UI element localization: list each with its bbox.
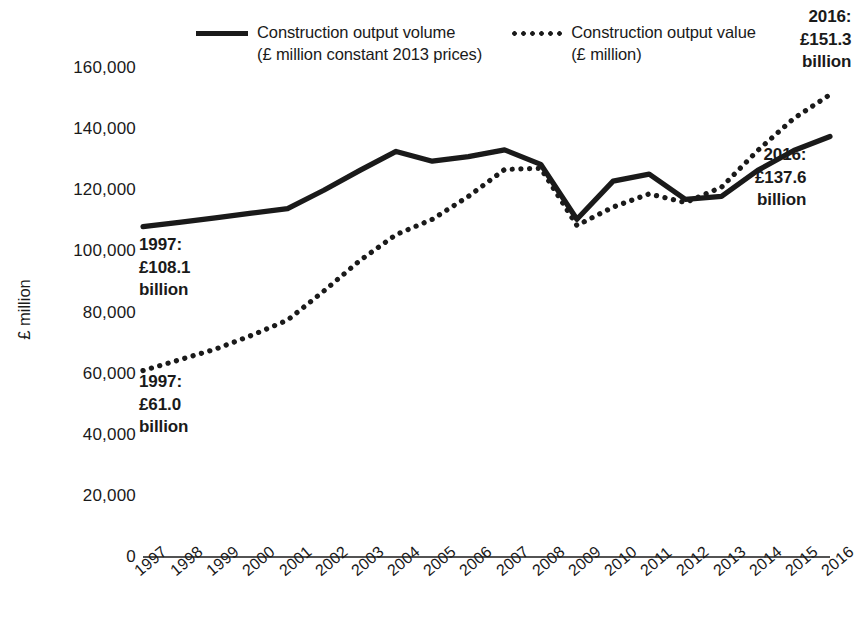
plot-area [0, 0, 867, 633]
annotation-value-start: 1997:£61.0billion [139, 371, 188, 439]
annotation-line: billion [755, 189, 806, 212]
annotation-line: 1997: [139, 371, 188, 394]
annotation-line: 2016: [800, 6, 851, 29]
annotation-volume-end: 2016:£137.6billion [755, 144, 806, 212]
construction-output-chart: Construction output volume (£ million co… [0, 0, 867, 633]
annotation-line: £108.1 [139, 257, 190, 280]
series-line-value [143, 95, 830, 371]
annotation-line: £151.3 [800, 29, 851, 52]
annotation-value-end: 2016:£151.3billion [800, 6, 851, 74]
annotation-volume-start: 1997:£108.1billion [139, 234, 190, 302]
annotation-line: £61.0 [139, 394, 188, 417]
annotation-line: £137.6 [755, 167, 806, 190]
annotation-line: billion [800, 51, 851, 74]
annotation-line: 2016: [755, 144, 806, 167]
annotation-line: billion [139, 416, 188, 439]
annotation-line: billion [139, 279, 190, 302]
annotation-line: 1997: [139, 234, 190, 257]
